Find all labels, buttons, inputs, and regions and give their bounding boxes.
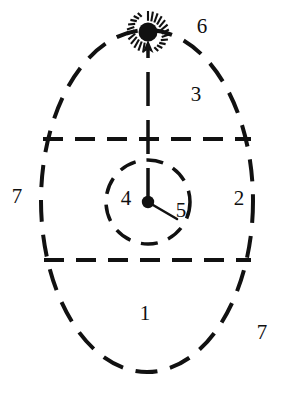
reference-label-4: 4 bbox=[121, 186, 132, 210]
reference-label-7-right: 7 bbox=[257, 320, 268, 344]
reference-label-5: 5 bbox=[176, 198, 187, 222]
diagram-canvas: 1 2 3 4 5 6 7 7 bbox=[0, 0, 281, 394]
starburst-source-icon bbox=[127, 11, 169, 53]
schematic-diagram: 1 2 3 4 5 6 7 7 bbox=[0, 0, 281, 394]
leader-line-to-label-5 bbox=[153, 205, 177, 219]
center-point-marker bbox=[142, 196, 154, 208]
reference-label-1: 1 bbox=[140, 301, 151, 325]
reference-label-6: 6 bbox=[197, 14, 208, 38]
reference-label-2: 2 bbox=[234, 186, 245, 210]
reference-label-7-left: 7 bbox=[12, 184, 23, 208]
reference-label-3: 3 bbox=[191, 82, 202, 106]
